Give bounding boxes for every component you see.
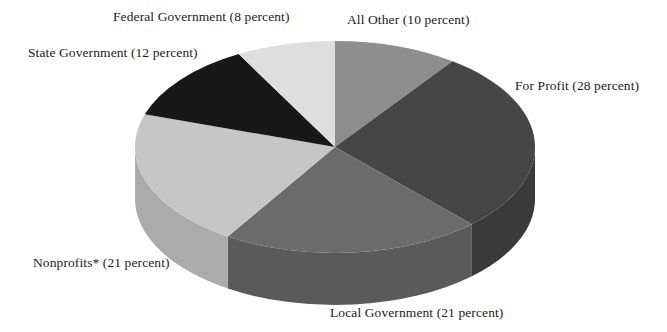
slice-label-all-other: All Other (10 percent) [347,13,470,28]
pie-slices-group [135,41,535,305]
slice-label-for-profit: For Profit (28 percent) [515,79,639,94]
slice-label-local-government: Local Government (21 percent) [330,306,503,321]
slice-label-federal-government: Federal Government (8 percent) [113,10,290,25]
slice-label-state-government: State Government (12 percent) [28,46,198,61]
slice-label-nonprofits: Nonprofits* (21 percent) [33,256,170,271]
pie-chart: All Other (10 percent) For Profit (28 pe… [0,0,667,332]
